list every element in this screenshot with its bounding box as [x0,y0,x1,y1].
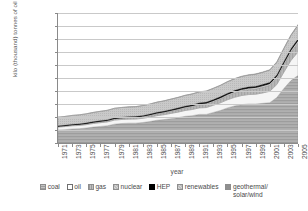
x-tick-label: 2001 [273,149,280,159]
legend-item-coal[interactable]: coal [40,183,60,191]
legend-label: renewables [185,183,219,191]
x-tick-mark [115,144,116,147]
legend-swatch-icon [113,184,119,190]
gridline [58,52,298,53]
legend-label: coal [48,183,60,191]
chart-legend: coaloilgasnuclearHEPrenewablesgeothermal… [0,183,308,198]
y-tick-mark [55,39,58,40]
x-tick-mark [58,144,59,147]
legend-item-gas[interactable]: gas [88,183,106,191]
legend-label: gas [95,183,106,191]
legend-label: nuclear [121,183,143,191]
x-tick-mark [270,144,271,147]
gridline [58,130,298,131]
x-tick-mark [242,144,243,147]
x-tick-label: 1991 [202,149,209,159]
x-tick-mark [129,144,130,147]
x-tick-label: 1987 [174,149,181,159]
y-tick-mark [55,117,58,118]
y-tick-mark [55,91,58,92]
x-tick-label: 1981 [132,149,139,159]
x-tick-mark [86,144,87,147]
y-tick-mark [55,13,58,14]
x-tick-label: 1973 [75,149,82,159]
y-tick-mark [55,104,58,105]
legend-label: HEP [157,183,171,191]
x-tick-mark [213,144,214,147]
x-tick-mark [256,144,257,147]
y-tick-mark [55,130,58,131]
x-tick-label: 1997 [245,149,252,159]
gridline [58,39,298,40]
x-tick-mark [171,144,172,147]
legend-swatch-icon [88,184,94,190]
x-tick-label: 1995 [230,149,237,159]
y-tick-mark [55,65,58,66]
legend-swatch-icon [177,184,183,190]
x-tick-mark [157,144,158,147]
gridline [58,78,298,79]
gridline [58,26,298,27]
gridline [58,13,298,14]
x-tick-label: 2003 [287,149,294,159]
x-axis-title: year [57,168,297,175]
x-tick-label: 1985 [160,149,167,159]
legend-label: oil [74,183,81,191]
legend-item-renewables[interactable]: renewables [177,183,218,191]
x-tick-label: 1977 [103,149,110,159]
x-tick-mark [143,144,144,147]
legend-swatch-icon [40,184,46,190]
x-tick-label: 1993 [216,149,223,159]
x-tick-label: 1975 [89,149,96,159]
y-tick-mark [55,52,58,53]
x-tick-mark [72,144,73,147]
gridline [58,91,298,92]
x-tick-mark [185,144,186,147]
legend-swatch-icon [149,184,155,190]
legend-item-nuclear[interactable]: nuclear [113,183,142,191]
legend-label-line2: solar/wind [233,191,268,199]
legend-item-hep[interactable]: HEP [149,183,170,191]
legend-item-oil[interactable]: oil [67,183,81,191]
x-tick-label: 1989 [188,149,195,159]
x-tick-mark [199,144,200,147]
plot-area: 0200,000400,000600,000800,0001,000,0001,… [57,13,298,144]
legend-swatch-icon [225,184,231,190]
x-tick-label: 1999 [259,149,266,159]
y-tick-mark [55,78,58,79]
chart-figure: kilo (thousand) tonnes of oil equivalent… [0,0,308,211]
y-tick-mark [55,26,58,27]
x-tick-mark [100,144,101,147]
y-axis-title: kilo (thousand) tonnes of oil equivalent… [11,0,18,86]
x-tick-mark [298,144,299,147]
legend-swatch-icon [67,184,73,190]
x-tick-mark [284,144,285,147]
gridline [58,65,298,66]
x-tick-label: 1979 [118,149,125,159]
gridline [58,104,298,105]
gridline [58,117,298,118]
legend-label: geothermal/solar/wind [233,183,268,198]
x-tick-mark [227,144,228,147]
x-tick-label: 2005 [301,149,308,159]
legend-item-geothermal[interactable]: geothermal/solar/wind [225,183,267,198]
x-tick-label: 1971 [61,149,68,159]
x-tick-label: 1983 [146,149,153,159]
